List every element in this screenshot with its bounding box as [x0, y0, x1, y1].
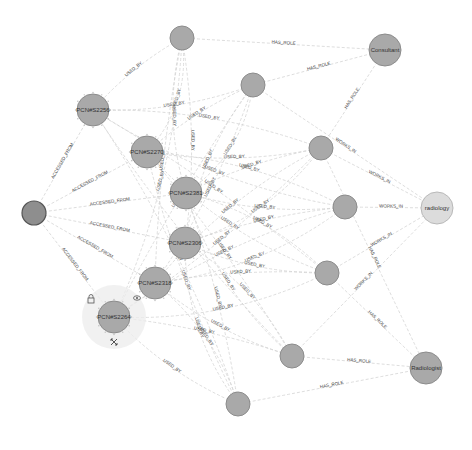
edge-used-by[interactable]	[93, 38, 182, 110]
edge-label: ACCESSED_FROM	[71, 169, 109, 193]
node-label: PCN#S2256	[76, 107, 110, 113]
node-pcn2318[interactable]: PCN#S2318	[137, 265, 173, 301]
edge-label: USED_BY	[239, 282, 257, 301]
edge-label: ACCESSED_FROM	[89, 220, 130, 233]
node-pcn2256[interactable]: PCN#S2256	[75, 92, 111, 128]
edges-layer: ACCESSED_FROMACCESSED_FROMACCESSED_FROMA…	[34, 38, 437, 404]
node-label: Radiologist	[411, 365, 441, 371]
node-label: radiology	[425, 205, 449, 211]
node-u3[interactable]	[309, 136, 333, 160]
edge-label: USED_BY	[124, 60, 143, 77]
node-radiologist[interactable]: Radiologist	[410, 352, 442, 384]
edge-label: USED_BY	[155, 170, 165, 192]
edge-label: USED_BY	[162, 358, 182, 374]
edge-label: ACCESSED_FROM	[50, 142, 75, 180]
edge-label: USED_BY	[230, 268, 251, 274]
node-u5[interactable]	[315, 261, 339, 285]
node-pcn2306[interactable]: PCN#S2306	[167, 225, 203, 261]
node-insight[interactable]	[22, 201, 46, 225]
node-u6[interactable]	[280, 344, 304, 368]
node-label: PCN#S2381	[169, 190, 203, 196]
edge-used-by[interactable]	[155, 148, 321, 283]
node-radiology[interactable]: radiology	[421, 192, 453, 224]
node-label: PCN#S2318	[138, 280, 172, 286]
edge-label: ACCESSED_FROM	[89, 196, 130, 206]
edge-label: HAS_ROLE	[347, 357, 371, 364]
edge-label: ACCESSED_FROM	[61, 247, 90, 282]
edge-label: HAS_ROLE	[367, 245, 382, 269]
edge-label: USED_BY	[190, 130, 195, 151]
node-label: PCN#S2264	[97, 314, 131, 320]
node-u2[interactable]	[241, 73, 265, 97]
node-u1[interactable]	[170, 26, 194, 50]
edge-label: HAS_ROLE	[319, 380, 344, 389]
node-consultant[interactable]: Consultant	[369, 34, 401, 66]
edge-label: USED_BY	[198, 112, 220, 120]
node-u7[interactable]	[226, 392, 250, 416]
edge-label: WORKS_IN	[368, 169, 392, 184]
edge-label: WORKS_IN	[370, 231, 393, 248]
edge-label: USED_BY	[172, 105, 178, 126]
edge-label: WORKS_IN	[334, 137, 357, 155]
node-label: PCN#S2270	[130, 149, 164, 155]
edge-label: HAS_ROLE	[367, 309, 388, 329]
node-label: PCN#S2306	[168, 240, 202, 246]
node-u4[interactable]	[333, 195, 357, 219]
edge-label: HAS_ROLE	[306, 61, 330, 72]
edge-used-by[interactable]	[155, 283, 292, 356]
edge-label: ACCESSED_FROM	[76, 234, 114, 259]
edge-label: WORKS_IN	[379, 203, 403, 208]
nodes-layer: PCN#S2256PCN#S2270PCN#S2381PCN#S2306PCN#…	[22, 26, 453, 416]
node-label: Consultant	[371, 47, 400, 53]
graph-canvas[interactable]: ACCESSED_FROMACCESSED_FROMACCESSED_FROMA…	[0, 0, 472, 450]
edge-label: USED_BY	[222, 135, 237, 155]
edge-label: HAS_ROLE	[271, 39, 295, 45]
edge-label: HAS_ROLE	[343, 87, 360, 110]
edge-used-by[interactable]	[147, 85, 253, 152]
edge-label: WORKS_IN	[353, 271, 373, 292]
edge-label: USED_BY	[212, 303, 234, 312]
